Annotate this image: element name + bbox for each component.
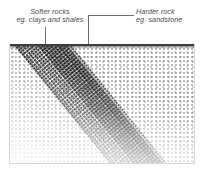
ground-surface-shading <box>9 46 195 49</box>
stipple-density-falloff <box>9 44 195 164</box>
annotation-harder-rock-line2: eg. sandstone <box>136 16 202 24</box>
leader-line-harder-rock-horizontal <box>88 15 134 16</box>
annotation-softer-rocks: Softer rocks eg. clays and shales <box>14 8 86 25</box>
cross-section-block <box>9 44 195 164</box>
geology-cross-section-figure: Softer rocks eg. clays and shales Harder… <box>0 0 203 170</box>
annotation-softer-rocks-line2: eg. clays and shales <box>14 16 86 24</box>
annotation-harder-rock: Harder rock eg. sandstone <box>136 8 202 25</box>
